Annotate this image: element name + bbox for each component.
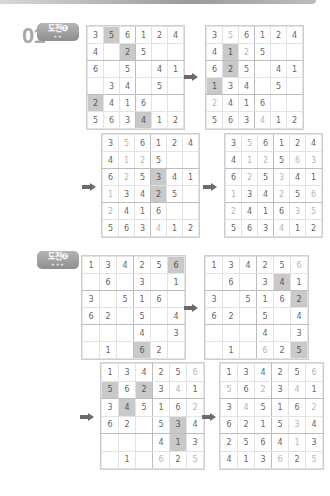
grid-cell bbox=[206, 342, 223, 359]
grid-cell bbox=[168, 291, 185, 308]
grid-cell bbox=[167, 203, 183, 220]
grid-cell: 6 bbox=[289, 399, 306, 417]
grid-cell: 1 bbox=[306, 169, 322, 186]
grid-cell: 4 bbox=[152, 61, 168, 78]
grid-cell: 4 bbox=[255, 364, 272, 382]
grid-cell: 4 bbox=[119, 399, 136, 417]
sudoku-grid-challenge2-step2: 1342566341351626254431625 bbox=[204, 255, 309, 360]
grid-cell: 2 bbox=[272, 364, 289, 382]
grid-cell: 4 bbox=[167, 169, 183, 186]
badge-label: 도전❶ bbox=[48, 24, 69, 33]
grid-cell: 3 bbox=[103, 135, 119, 152]
grid-cell: 5 bbox=[88, 112, 104, 129]
grid-cell bbox=[287, 44, 303, 61]
grid-cell: 1 bbox=[153, 399, 170, 417]
grid-cell bbox=[183, 186, 199, 203]
grid-cell: 4 bbox=[240, 257, 257, 274]
grid-cell: 5 bbox=[271, 78, 287, 95]
grid-cell: 5 bbox=[258, 169, 274, 186]
grid-cell: 2 bbox=[151, 342, 168, 359]
grid-cell: 1 bbox=[168, 274, 185, 291]
grid-cell bbox=[119, 434, 136, 452]
grid-cell: 1 bbox=[223, 44, 239, 61]
grid-cell bbox=[151, 325, 168, 342]
grid-cell: 6 bbox=[83, 308, 100, 325]
grid-cell: 6 bbox=[134, 342, 151, 359]
grid-cell: 1 bbox=[287, 61, 303, 78]
grid-cell: 6 bbox=[153, 451, 170, 469]
grid-cell: 4 bbox=[239, 78, 255, 95]
grid-cell bbox=[274, 308, 291, 325]
grid-cell: 6 bbox=[274, 291, 291, 308]
grid-cell bbox=[240, 342, 257, 359]
grid-cell bbox=[136, 416, 153, 434]
grid-cell: 4 bbox=[153, 434, 170, 452]
grid-cell: 2 bbox=[242, 169, 258, 186]
grid-cell: 3 bbox=[223, 257, 240, 274]
grid-cell bbox=[240, 274, 257, 291]
grid-cell: 1 bbox=[306, 381, 323, 399]
grid-cell: 4 bbox=[117, 257, 134, 274]
sudoku-grid-challenge1-step3: 3561244125625341134252416563412 bbox=[101, 133, 200, 238]
grid-cell: 4 bbox=[104, 95, 120, 112]
right-arrow-icon bbox=[184, 73, 198, 81]
grid-cell: 2 bbox=[136, 381, 153, 399]
grid-cell: 4 bbox=[103, 152, 119, 169]
grid-cell: 3 bbox=[257, 274, 274, 291]
grid-cell: 2 bbox=[100, 308, 117, 325]
grid-cell bbox=[117, 274, 134, 291]
grid-cell: 4 bbox=[119, 203, 135, 220]
grid-cell bbox=[117, 342, 134, 359]
grid-cell: 3 bbox=[238, 364, 255, 382]
grid-cell: 4 bbox=[291, 308, 308, 325]
grid-cell bbox=[240, 325, 257, 342]
right-arrow-icon bbox=[184, 304, 198, 312]
grid-cell: 1 bbox=[136, 27, 152, 44]
grid-cell: 1 bbox=[274, 135, 290, 152]
grid-cell: 2 bbox=[153, 364, 170, 382]
grid-cell: 3 bbox=[290, 203, 306, 220]
grid-cell: 5 bbox=[151, 257, 168, 274]
grid-cell: 5 bbox=[306, 451, 323, 469]
grid-cell: 1 bbox=[221, 364, 238, 382]
grid-cell: 6 bbox=[120, 27, 136, 44]
grid-cell: 5 bbox=[117, 291, 134, 308]
grid-cell: 2 bbox=[290, 135, 306, 152]
grid-cell: 6 bbox=[238, 381, 255, 399]
grid-cell: 2 bbox=[223, 308, 240, 325]
grid-cell: 6 bbox=[207, 61, 223, 78]
grid-cell bbox=[168, 78, 184, 95]
grid-cell: 3 bbox=[239, 112, 255, 129]
grid-cell: 4 bbox=[289, 381, 306, 399]
grid-cell bbox=[206, 274, 223, 291]
grid-cell: 2 bbox=[151, 186, 167, 203]
grid-cell: 2 bbox=[274, 186, 290, 203]
right-arrow-icon bbox=[80, 413, 94, 421]
grid-cell: 6 bbox=[272, 451, 289, 469]
grid-cell: 4 bbox=[290, 169, 306, 186]
grid-cell: 6 bbox=[223, 274, 240, 291]
grid-cell: 3 bbox=[274, 169, 290, 186]
grid-cell: 1 bbox=[238, 451, 255, 469]
grid-cell: 2 bbox=[258, 152, 274, 169]
grid-cell bbox=[100, 325, 117, 342]
grid-cell: 3 bbox=[168, 325, 185, 342]
grid-cell: 1 bbox=[242, 152, 258, 169]
grid-cell: 6 bbox=[151, 203, 167, 220]
grid-cell: 4 bbox=[88, 44, 104, 61]
grid-cell: 2 bbox=[274, 342, 291, 359]
grid-cell: 4 bbox=[136, 112, 152, 129]
grid-cell: 1 bbox=[187, 381, 204, 399]
grid-cell: 6 bbox=[290, 152, 306, 169]
grid-cell: 3 bbox=[289, 416, 306, 434]
grid-cell: 1 bbox=[257, 291, 274, 308]
grid-cell: 4 bbox=[170, 381, 187, 399]
grid-cell: 2 bbox=[238, 416, 255, 434]
grid-cell: 3 bbox=[88, 27, 104, 44]
grid-cell: 1 bbox=[290, 220, 306, 237]
grid-cell: 2 bbox=[271, 27, 287, 44]
grid-cell: 3 bbox=[223, 78, 239, 95]
grid-cell: 5 bbox=[151, 152, 167, 169]
grid-cell: 2 bbox=[226, 203, 242, 220]
grid-cell: 1 bbox=[183, 169, 199, 186]
